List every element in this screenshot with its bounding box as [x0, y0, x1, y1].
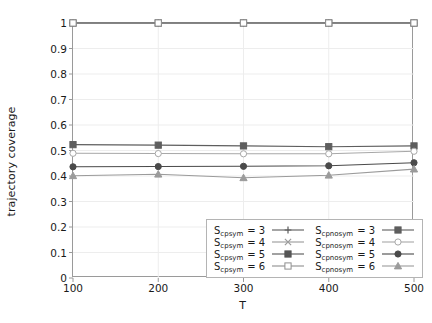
data-point-marker — [70, 164, 76, 170]
x-tick-label: 500 — [404, 282, 424, 294]
data-point-marker — [326, 151, 332, 157]
series-6 — [70, 160, 417, 170]
data-point-marker — [285, 227, 292, 234]
legend-marker-sample — [271, 248, 305, 260]
legend-marker-sample — [381, 236, 415, 248]
legend-entry: Scpsym= 5 — [214, 248, 305, 260]
legend-marker-sample — [271, 260, 305, 272]
data-point-marker — [155, 20, 161, 26]
legend-entry: Scpnosym= 5 — [315, 248, 415, 260]
y-tick-label: 0.7 — [50, 94, 67, 106]
legend-entry: Scpnosym= 3 — [315, 224, 415, 236]
data-point-marker — [326, 20, 332, 26]
data-point-marker — [411, 148, 417, 154]
legend-entry: Scpsym= 6 — [214, 260, 305, 272]
chart-figure: trajectory coverage 00.10.20.30.40.50.60… — [0, 0, 432, 323]
data-point-marker — [155, 163, 161, 169]
legend-column-nosym: Scpnosym= 3Scpnosym= 4Scpnosym= 5Scpnosy… — [315, 224, 415, 272]
y-tick-label: 1 — [60, 17, 67, 29]
data-point-marker — [326, 144, 332, 150]
y-tick-label: 0.8 — [50, 68, 67, 80]
data-point-marker — [70, 142, 76, 148]
legend-label: Scpnosym= 6 — [315, 261, 375, 272]
x-axis-title: T — [72, 299, 413, 312]
plot-area: 00.10.20.30.40.50.60.70.80.91 1002003004… — [72, 22, 413, 277]
data-point-marker — [395, 227, 401, 233]
legend-marker-sample — [271, 236, 305, 248]
x-tick-label: 100 — [63, 282, 83, 294]
series-4 — [70, 142, 417, 150]
data-point-marker — [155, 142, 161, 148]
x-tick-label: 300 — [233, 282, 253, 294]
y-axis-title: trajectory coverage — [0, 0, 22, 323]
data-point-marker — [240, 163, 246, 169]
legend-label: Scpsym= 6 — [214, 261, 265, 272]
legend-label: Scpnosym= 5 — [315, 249, 375, 260]
data-point-marker — [285, 263, 291, 269]
legend-entry: Scpnosym= 4 — [315, 236, 415, 248]
legend-marker-sample — [381, 248, 415, 260]
y-tick-label: 0.1 — [50, 247, 67, 259]
data-point-marker — [240, 20, 246, 26]
x-tick-label: 200 — [148, 282, 168, 294]
y-tick-label: 0.4 — [50, 170, 67, 182]
legend-label: Scpnosym= 4 — [315, 237, 375, 248]
data-point-marker — [285, 251, 291, 257]
data-point-marker — [70, 20, 76, 26]
y-tick-label: 0.2 — [50, 221, 67, 233]
legend-marker-sample — [381, 224, 415, 236]
legend-column-sym: Scpsym= 3Scpsym= 4Scpsym= 5Scpsym= 6 — [214, 224, 305, 272]
data-point-marker — [411, 20, 417, 26]
legend-marker-sample — [381, 260, 415, 272]
data-point-marker — [395, 251, 401, 257]
legend-entry: Scpsym= 3 — [214, 224, 305, 236]
series-3 — [70, 20, 417, 26]
data-point-marker — [155, 150, 161, 156]
legend-label: Scpsym= 3 — [214, 225, 265, 236]
legend-entry: Scpsym= 4 — [214, 236, 305, 248]
y-tick-label: 0.3 — [50, 196, 67, 208]
data-point-marker — [326, 163, 332, 169]
legend-label: Scpsym= 4 — [214, 237, 265, 248]
data-point-marker — [70, 150, 76, 156]
data-point-marker — [395, 239, 401, 245]
legend-label: Scpsym= 5 — [214, 249, 265, 260]
y-tick-label: 0.9 — [50, 43, 67, 55]
data-point-marker — [240, 151, 246, 157]
legend-entry: Scpnosym= 6 — [315, 260, 415, 272]
y-tick-label: 0.5 — [50, 145, 67, 157]
legend-label: Scpnosym= 3 — [315, 225, 375, 236]
x-tick-label: 400 — [319, 282, 339, 294]
legend-marker-sample — [271, 224, 305, 236]
data-point-marker — [240, 143, 246, 149]
chart-legend: Scpsym= 3Scpsym= 4Scpsym= 5Scpsym= 6 Scp… — [206, 219, 423, 278]
y-tick-label: 0.6 — [50, 119, 67, 131]
